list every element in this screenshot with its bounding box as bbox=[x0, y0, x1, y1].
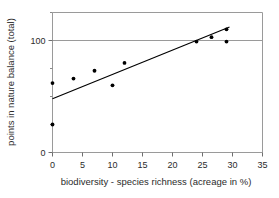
data-point bbox=[51, 123, 55, 127]
data-point bbox=[225, 40, 229, 44]
x-tick-label-35: 35 bbox=[257, 160, 267, 170]
data-points bbox=[51, 27, 229, 126]
scatter-chart: 0100 05101520253035 biodiversity - speci… bbox=[0, 0, 279, 198]
data-point bbox=[210, 35, 214, 39]
data-point bbox=[225, 27, 229, 31]
x-tick-label-0: 0 bbox=[50, 160, 55, 170]
x-tick-label-20: 20 bbox=[167, 160, 177, 170]
y-axis-tick-labels: 0100 bbox=[30, 36, 45, 158]
y-tick-label-0: 0 bbox=[40, 148, 45, 158]
data-point bbox=[93, 69, 97, 73]
x-tick-label-30: 30 bbox=[227, 160, 237, 170]
data-point bbox=[51, 81, 55, 85]
x-tick-label-15: 15 bbox=[137, 160, 147, 170]
x-tick-label-10: 10 bbox=[107, 160, 117, 170]
regression-line bbox=[53, 27, 230, 99]
data-point bbox=[111, 83, 115, 87]
trend-line-path bbox=[53, 27, 230, 99]
x-tick-label-5: 5 bbox=[80, 160, 85, 170]
data-point bbox=[123, 61, 127, 65]
x-axis-tick-labels: 05101520253035 bbox=[50, 160, 268, 170]
x-axis-ticks bbox=[53, 153, 263, 157]
plot-frame bbox=[53, 13, 263, 153]
plot-border bbox=[53, 13, 263, 153]
data-point bbox=[195, 40, 199, 44]
x-tick-label-25: 25 bbox=[197, 160, 207, 170]
y-tick-label-100: 100 bbox=[30, 36, 45, 46]
data-point bbox=[72, 77, 76, 81]
y-axis-title: points in nature balance (total) bbox=[5, 18, 16, 146]
x-axis-title: biodiversity - species richness (acreage… bbox=[61, 176, 252, 187]
chart-canvas: 0100 05101520253035 biodiversity - speci… bbox=[0, 0, 279, 198]
